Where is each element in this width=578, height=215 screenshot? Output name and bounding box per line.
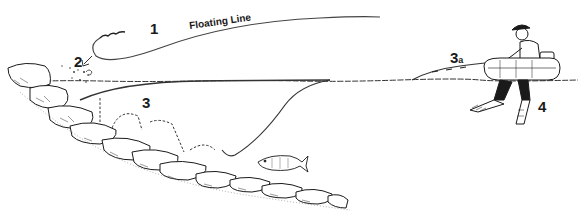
illustration: [0, 0, 578, 215]
step-3a-suffix: a: [458, 55, 463, 65]
step-3a-label: 3a: [450, 49, 463, 66]
fish-icon: [258, 156, 308, 172]
step-2-label: 2: [74, 53, 82, 70]
step-1-label: 1: [150, 20, 158, 37]
step-3-label: 3: [142, 94, 150, 111]
rocky-shore: [8, 63, 348, 208]
step-4-label: 4: [538, 98, 546, 115]
fly-fishing-float-tube-diagram: Floating Line 1 2 3 3a 4: [0, 0, 578, 215]
angler-in-float-tube: [470, 25, 560, 124]
arrow-icon: [82, 56, 92, 66]
